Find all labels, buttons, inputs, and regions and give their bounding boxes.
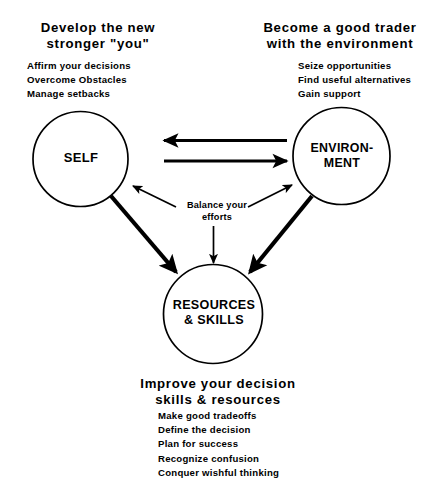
list-item: Conquer wishful thinking: [158, 466, 279, 480]
list-item: Define the decision: [158, 423, 279, 437]
node-label-environment: ENVIRON- MENT: [294, 141, 390, 171]
self-heading-line2: stronger "you": [8, 36, 188, 52]
list-item: Find useful alternatives: [298, 73, 411, 87]
resources-heading-line1: Improve your decision: [104, 376, 332, 392]
resources-heading-line2: skills & resources: [104, 392, 332, 408]
diagram-canvas: Develop the new stronger "you" Affirm yo…: [0, 0, 429, 489]
list-item: Seize opportunities: [298, 59, 411, 73]
balance-note: Balance your efforts: [158, 200, 276, 223]
environment-heading-line2: with the environment: [252, 36, 428, 52]
list-item: Overcome Obstacles: [27, 73, 131, 87]
list-item: Recognize confusion: [158, 452, 279, 466]
resources-heading: Improve your decision skills & resources: [104, 376, 332, 407]
self-bullet-list: Affirm your decisions Overcome Obstacles…: [27, 59, 131, 102]
environment-bullet-list: Seize opportunities Find useful alternat…: [298, 59, 411, 102]
node-label-resources-line1: RESOURCES: [158, 298, 270, 313]
self-heading-line1: Develop the new: [8, 20, 188, 36]
balance-note-line2: efforts: [158, 212, 276, 224]
node-label-self: SELF: [33, 150, 129, 165]
node-label-self-line1: SELF: [33, 150, 129, 165]
list-item: Manage setbacks: [27, 87, 131, 101]
node-label-resources: RESOURCES & SKILLS: [158, 298, 270, 328]
self-heading: Develop the new stronger "you": [8, 20, 188, 51]
environment-heading-line1: Become a good trader: [252, 20, 428, 36]
list-item: Affirm your decisions: [27, 59, 131, 73]
list-item: Make good tradeoffs: [158, 409, 279, 423]
list-item: Plan for success: [158, 437, 279, 451]
node-label-environment-line1: ENVIRON-: [294, 141, 390, 156]
environment-heading: Become a good trader with the environmen…: [252, 20, 428, 51]
resources-bullet-list: Make good tradeoffs Define the decision …: [158, 409, 279, 480]
node-label-environment-line2: MENT: [294, 156, 390, 171]
balance-note-line1: Balance your: [158, 200, 276, 212]
list-item: Gain support: [298, 87, 411, 101]
node-label-resources-line2: & SKILLS: [158, 313, 270, 328]
